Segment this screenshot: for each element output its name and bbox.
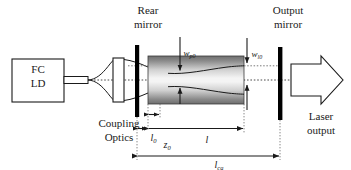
- laser-output-label-line2: output: [307, 124, 335, 136]
- rear-mirror-label-line1: Rear: [138, 4, 159, 16]
- dimension-z0-subscript: 0: [167, 144, 170, 151]
- dimension-lca-label: lca: [198, 138, 216, 170]
- laser-output-arrow: [291, 56, 343, 104]
- pump-waist-label: wp0: [167, 26, 195, 76]
- output-mirror: [278, 47, 282, 120]
- output-mirror-label-line1: Output: [273, 4, 304, 16]
- gain-medium-crystal: [148, 56, 244, 104]
- pump-waist-symbol: w: [183, 48, 189, 58]
- coupling-lens: [113, 58, 124, 102]
- laser-waist-symbol: w: [251, 49, 257, 59]
- fc-ld-label-line1: FC: [31, 63, 44, 75]
- laser-waist-label: wl0: [235, 27, 261, 77]
- laser-waist-subscript: l0: [258, 54, 263, 60]
- dimension-z0-label: z0: [147, 118, 161, 168]
- fc-ld-label-line2: LD: [31, 77, 46, 89]
- fiber-pigtail: [64, 77, 88, 84]
- output-mirror-label-line2: mirror: [274, 18, 302, 30]
- rear-mirror: [135, 45, 139, 117]
- laser-output-label-line1: Laser: [309, 110, 333, 122]
- pump-waist-subscript: p0: [190, 53, 196, 59]
- dimension-l0-label: l0: [134, 111, 148, 161]
- rear-mirror-label-line2: mirror: [134, 18, 162, 30]
- dimension-lca-subscript: ca: [217, 164, 223, 170]
- fc-ld-label: FC LD: [12, 63, 64, 91]
- coupling-optics-label-line2: Optics: [105, 131, 134, 143]
- laser-output-label: Laser output: [294, 110, 348, 138]
- laser-cavity-diagram: FC LD Coupling Optics Rear mirror Output…: [0, 0, 351, 170]
